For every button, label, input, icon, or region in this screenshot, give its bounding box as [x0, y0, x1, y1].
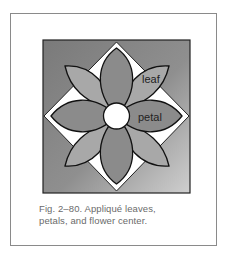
petal-label: petal: [138, 111, 162, 123]
flower-center: [104, 103, 130, 129]
caption-line-2: petals, and flower center.: [39, 215, 199, 227]
leaf-label: leaf: [142, 73, 161, 85]
figure-caption: Fig. 2–80. Appliqué leaves, petals, and …: [39, 203, 199, 227]
caption-line-1: Fig. 2–80. Appliqué leaves,: [39, 203, 199, 215]
